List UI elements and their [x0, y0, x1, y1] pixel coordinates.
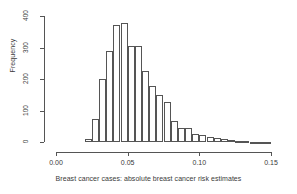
- y-tick-0: [40, 142, 44, 143]
- histogram-bar: [128, 46, 135, 142]
- x-tick-0.10: [199, 152, 200, 156]
- histogram-bar: [242, 141, 249, 143]
- x-axis-title: Breast cancer cases: absolute breast can…: [0, 175, 297, 182]
- histogram-bar: [142, 71, 149, 142]
- histogram-bar: [156, 95, 163, 142]
- x-tick-0.05: [128, 152, 129, 156]
- histogram-bar: [221, 139, 228, 142]
- y-tick-label-400: 400: [22, 1, 29, 31]
- histogram-bar: [250, 142, 257, 144]
- histogram-bar: [85, 139, 92, 142]
- histogram-bar: [192, 134, 199, 142]
- histogram-bar: [121, 23, 128, 142]
- x-tick-label-0.10: 0.10: [179, 159, 219, 166]
- histogram-bar: [171, 121, 178, 142]
- histogram-bar: [214, 138, 221, 142]
- histogram-bar: [164, 102, 171, 142]
- y-tick-100: [40, 111, 44, 112]
- y-tick-300: [40, 48, 44, 49]
- histogram-bar: [235, 141, 242, 143]
- histogram-bar: [135, 46, 142, 142]
- y-tick-label-200: 200: [22, 64, 29, 94]
- y-tick-label-100: 100: [22, 95, 29, 125]
- histogram-bar: [178, 128, 185, 142]
- x-tick-0.00: [56, 152, 57, 156]
- histogram-bar: [185, 128, 192, 142]
- y-axis-line: [44, 16, 45, 142]
- x-tick-label-0.05: 0.05: [108, 159, 148, 166]
- y-axis-title: Frequency: [9, 20, 16, 92]
- y-tick-200: [40, 79, 44, 80]
- y-tick-label-0: 0: [22, 127, 29, 157]
- y-tick-400: [40, 16, 44, 17]
- histogram-bar: [113, 25, 120, 142]
- y-tick-label-300: 300: [22, 32, 29, 62]
- x-tick-label-0.00: 0.00: [36, 159, 76, 166]
- histogram-bar: [199, 135, 206, 142]
- histogram-bar: [99, 79, 106, 142]
- x-tick-label-0.15: 0.15: [251, 159, 291, 166]
- histogram-plot: Frequency 0100200300400 0.000.050.100.15…: [0, 0, 297, 194]
- histogram-bar: [149, 86, 156, 142]
- histogram-bar: [207, 137, 214, 142]
- histogram-bar: [92, 119, 99, 142]
- histogram-bar: [228, 140, 235, 142]
- histogram-bar: [257, 142, 264, 144]
- x-tick-0.15: [271, 152, 272, 156]
- x-axis-line: [56, 152, 271, 153]
- histogram-bar: [264, 142, 271, 144]
- histogram-bar: [106, 51, 113, 142]
